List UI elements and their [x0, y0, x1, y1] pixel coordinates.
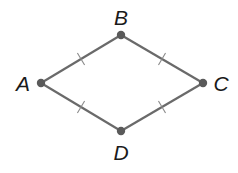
vertex-label-c: C [213, 72, 229, 95]
tick-mark-bc [158, 53, 165, 65]
rhombus-vertices [37, 31, 207, 135]
vertex-point-d [117, 127, 125, 135]
congruence-ticks [77, 53, 165, 113]
tick-mark-ab [77, 53, 84, 65]
tick-mark-da [77, 101, 84, 113]
vertex-label-b: B [114, 6, 128, 29]
rhombus-diagram: A B C D [0, 0, 238, 173]
vertex-point-c [199, 79, 207, 87]
vertex-point-a [37, 79, 45, 87]
tick-mark-cd [158, 101, 165, 113]
vertex-label-a: A [14, 72, 30, 95]
vertex-label-d: D [113, 141, 128, 164]
rhombus-edges [41, 35, 203, 131]
vertex-point-b [117, 31, 125, 39]
